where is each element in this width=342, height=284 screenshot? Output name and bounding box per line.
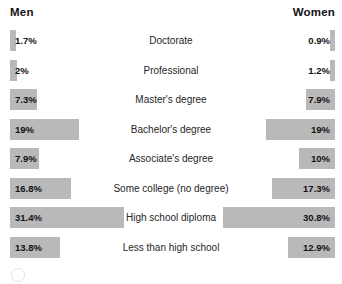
legend-label-women: Women <box>293 6 335 18</box>
row-men-half: 13.8% <box>10 233 132 263</box>
bar-value-men: 2% <box>15 60 29 81</box>
bar-value-women: 10% <box>311 148 330 169</box>
chart-row: 7.9%10%Associate's degree <box>0 144 342 174</box>
bar-value-men: 7.3% <box>15 89 37 110</box>
row-women-half: 10% <box>213 144 335 174</box>
bar-value-women: 0.9% <box>308 30 330 51</box>
bar-value-women: 7.9% <box>308 89 330 110</box>
bar-value-men: 19% <box>15 119 34 140</box>
chart-row: 13.8%12.9%Less than high school <box>0 233 342 263</box>
row-men-half: 7.3% <box>10 85 132 115</box>
row-men-half: 19% <box>10 115 132 145</box>
bar-value-men: 7.9% <box>15 148 37 169</box>
row-women-half: 7.9% <box>213 85 335 115</box>
chart-row: 7.3%7.9%Master's degree <box>0 85 342 115</box>
population-education-tornado-chart: Men Women 1.7%0.9%Doctorate2%1.2%Profess… <box>0 0 342 284</box>
row-men-half: 31.4% <box>10 203 132 233</box>
row-women-half: 17.3% <box>213 174 335 204</box>
scan-artifact-circle <box>11 268 25 282</box>
row-women-half: 19% <box>213 115 335 145</box>
chart-row: 1.7%0.9%Doctorate <box>0 26 342 56</box>
bar-value-women: 12.9% <box>303 237 330 258</box>
bar-value-women: 30.8% <box>303 207 330 228</box>
row-women-half: 1.2% <box>213 56 335 86</box>
chart-row: 16.8%17.3%Some college (no degree) <box>0 174 342 204</box>
bar-value-men: 1.7% <box>15 30 37 51</box>
bar-value-women: 19% <box>311 119 330 140</box>
row-men-half: 7.9% <box>10 144 132 174</box>
chart-row: 2%1.2%Professional <box>0 56 342 86</box>
chart-row: 31.4%30.8%High school diploma <box>0 203 342 233</box>
chart-rows: 1.7%0.9%Doctorate2%1.2%Professional7.3%7… <box>0 26 342 262</box>
bar-women <box>330 60 335 81</box>
bar-value-men: 31.4% <box>15 207 42 228</box>
chart-legend-header: Men Women <box>0 6 342 26</box>
bar-value-men: 13.8% <box>15 237 42 258</box>
row-women-half: 0.9% <box>213 26 335 56</box>
row-men-half: 2% <box>10 56 132 86</box>
row-women-half: 30.8% <box>213 203 335 233</box>
chart-row: 19%19%Bachelor's degree <box>0 115 342 145</box>
bar-value-women: 17.3% <box>303 178 330 199</box>
bar-women <box>330 30 335 51</box>
legend-label-men: Men <box>10 6 34 18</box>
bar-value-men: 16.8% <box>15 178 42 199</box>
row-men-half: 16.8% <box>10 174 132 204</box>
bar-value-women: 1.2% <box>308 60 330 81</box>
row-men-half: 1.7% <box>10 26 132 56</box>
row-women-half: 12.9% <box>213 233 335 263</box>
